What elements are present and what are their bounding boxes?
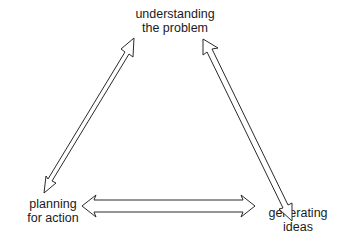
double-arrow-top-left-icon — [44, 38, 134, 193]
arrows-layer — [0, 0, 346, 242]
double-arrow-top-right-icon — [203, 39, 292, 221]
double-arrow-bottom-icon — [82, 195, 255, 217]
